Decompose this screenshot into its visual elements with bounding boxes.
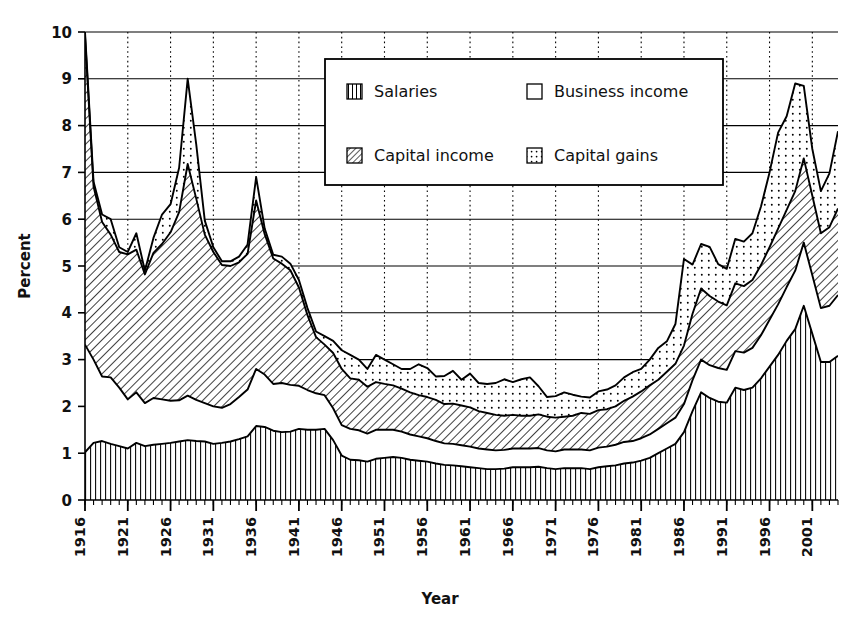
- x-tick-marks: [85, 500, 812, 511]
- y-tick-label-8: 8: [62, 117, 72, 135]
- y-tick-label-5: 5: [62, 258, 72, 276]
- y-tick-label-0: 0: [62, 492, 72, 510]
- legend-swatch-capital-income: [347, 148, 362, 163]
- x-tick-label-1971: 1971: [543, 517, 559, 557]
- y-tick-label-9: 9: [62, 70, 72, 88]
- legend-label-capital-income: Capital income: [374, 146, 494, 165]
- x-tick-label-1951: 1951: [371, 517, 387, 557]
- y-tick-label-3: 3: [62, 351, 72, 369]
- x-tick-label-1966: 1966: [500, 517, 516, 557]
- x-tick-label-1921: 1921: [115, 517, 131, 557]
- legend-label-salaries: Salaries: [374, 82, 437, 101]
- stacked-area-chart: 012345678910 191619211926193119361941194…: [0, 0, 855, 627]
- x-tick-label-1936: 1936: [243, 517, 259, 557]
- x-tick-label-1996: 1996: [757, 517, 773, 557]
- x-tick-label-1931: 1931: [200, 517, 216, 557]
- x-tick-label-2001: 2001: [799, 517, 815, 557]
- y-tick-label-7: 7: [62, 164, 72, 182]
- y-tick-marks: [78, 32, 85, 500]
- legend-label-business-income: Business income: [554, 82, 688, 101]
- y-tick-label-2: 2: [62, 398, 72, 416]
- x-axis-title: Year: [420, 590, 459, 608]
- x-tick-label-1981: 1981: [628, 517, 644, 557]
- x-tick-label-1976: 1976: [585, 517, 601, 557]
- chart-figure: 012345678910 191619211926193119361941194…: [0, 0, 855, 627]
- y-tick-label-6: 6: [62, 211, 72, 229]
- legend-swatch-business-income: [527, 84, 542, 99]
- legend-label-capital-gains: Capital gains: [554, 146, 658, 165]
- legend-swatch-salaries: [347, 84, 362, 99]
- x-tick-label-1926: 1926: [158, 517, 174, 557]
- y-tick-label-10: 10: [51, 24, 72, 42]
- y-tick-labels: 012345678910: [51, 24, 72, 510]
- x-tick-label-1916: 1916: [72, 517, 88, 557]
- y-tick-label-1: 1: [62, 445, 72, 463]
- legend-box: [325, 59, 723, 185]
- x-tick-label-1991: 1991: [714, 517, 730, 557]
- y-tick-label-4: 4: [62, 304, 72, 322]
- chart-legend: Salaries Business income Capital income …: [325, 59, 723, 185]
- x-tick-label-1941: 1941: [286, 517, 302, 557]
- x-tick-label-1961: 1961: [457, 517, 473, 557]
- x-tick-label-1986: 1986: [671, 517, 687, 557]
- y-axis-title: Percent: [16, 233, 34, 298]
- x-tick-labels: 1916192119261931193619411946195119561961…: [72, 517, 815, 557]
- legend-swatch-capital-gains: [527, 148, 542, 163]
- x-tick-label-1956: 1956: [414, 517, 430, 557]
- x-tick-label-1946: 1946: [329, 517, 345, 557]
